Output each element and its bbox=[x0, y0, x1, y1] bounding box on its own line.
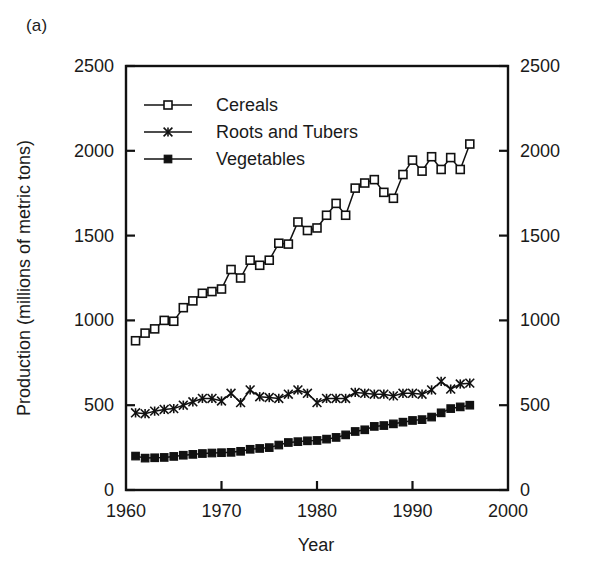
y-tick-label-left: 2000 bbox=[74, 141, 114, 161]
y-axis-left-labels: 05001000150020002500 bbox=[74, 56, 114, 500]
legend-label: Cereals bbox=[216, 95, 278, 115]
series-roots-and-tubers bbox=[131, 377, 474, 418]
x-axis-title: Year bbox=[298, 535, 334, 555]
legend-item-vegetables[interactable]: Vegetables bbox=[144, 149, 305, 169]
x-tick-label: 1990 bbox=[392, 501, 432, 521]
y-tick-label-left: 0 bbox=[104, 480, 114, 500]
y-tick-label-right: 500 bbox=[520, 395, 550, 415]
y-tick-label-right: 2500 bbox=[520, 56, 560, 76]
legend-item-cereals[interactable]: Cereals bbox=[144, 95, 278, 115]
data-series-layer bbox=[131, 140, 474, 462]
y-tick-label-left: 1000 bbox=[74, 310, 114, 330]
series-vegetables bbox=[132, 401, 474, 461]
x-tick-label: 1970 bbox=[201, 501, 241, 521]
x-tick-label: 1960 bbox=[106, 501, 146, 521]
y-tick-label-left: 2500 bbox=[74, 56, 114, 76]
y-tick-label-right: 0 bbox=[520, 480, 530, 500]
figure-root: (a) 05001000150020002500 050010001500200… bbox=[0, 0, 613, 578]
y-axis-right-ticks bbox=[499, 66, 508, 490]
y-tick-label-right: 1000 bbox=[520, 310, 560, 330]
y-axis-left-ticks bbox=[126, 66, 135, 490]
legend-label: Vegetables bbox=[216, 149, 305, 169]
y-tick-label-left: 1500 bbox=[74, 226, 114, 246]
y-tick-label-right: 2000 bbox=[520, 141, 560, 161]
chart-legend: CerealsRoots and TubersVegetables bbox=[144, 95, 358, 169]
x-axis-labels: 19601970198019902000 bbox=[106, 501, 528, 521]
series-cereals bbox=[132, 140, 474, 345]
x-axis-ticks bbox=[222, 481, 413, 490]
legend-label: Roots and Tubers bbox=[216, 122, 358, 142]
x-tick-label: 2000 bbox=[488, 501, 528, 521]
legend-item-roots-and-tubers[interactable]: Roots and Tubers bbox=[144, 122, 358, 142]
x-tick-label: 1980 bbox=[297, 501, 337, 521]
y-axis-right-labels: 05001000150020002500 bbox=[520, 56, 560, 500]
production-line-chart: 05001000150020002500 0500100015002000250… bbox=[0, 0, 613, 578]
y-tick-label-right: 1500 bbox=[520, 226, 560, 246]
y-axis-title: Production (millions of metric tons) bbox=[14, 140, 34, 416]
y-tick-label-left: 500 bbox=[84, 395, 114, 415]
